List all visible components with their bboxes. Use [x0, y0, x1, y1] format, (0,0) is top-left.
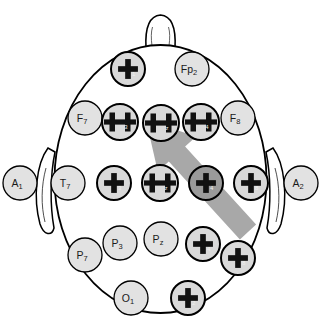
electrode-disc — [103, 226, 137, 260]
electrode-a1[interactable]: A1 — [3, 166, 37, 200]
electrode-disc — [68, 238, 102, 272]
electrode-p8[interactable]: 8 — [221, 241, 255, 275]
eeg-electrode-map: 1Fp2F73z4F8A1T73z48A2P7P3Pz48O12 — [0, 0, 321, 330]
electrode-p7[interactable]: P7 — [68, 238, 102, 272]
electrode-p3[interactable]: P3 — [103, 226, 137, 260]
electrode-disc — [114, 281, 148, 315]
electrode-pz[interactable]: Pz — [144, 222, 178, 256]
electrode-o1[interactable]: O1 — [114, 281, 148, 315]
right-ear-outline — [266, 148, 285, 234]
electrode-cz[interactable]: z — [142, 165, 178, 201]
electrode-t7[interactable]: T7 — [51, 166, 85, 200]
electrode-disc — [284, 166, 318, 200]
electrode-p4[interactable]: 4 — [186, 227, 220, 261]
electrode-disc — [144, 222, 178, 256]
electrode-c3[interactable]: 3 — [97, 166, 131, 200]
electrode-f8[interactable]: F8 — [221, 101, 255, 135]
figure-caption — [0, 321, 321, 330]
electrode-disc — [3, 166, 37, 200]
electrode-disc — [68, 101, 102, 135]
electrode-fp2[interactable]: Fp2 — [175, 52, 209, 86]
head-diagram-svg: 1Fp2F73z4F8A1T73z48A2P7P3Pz48O12 — [0, 0, 321, 330]
electrode-fp1[interactable]: 1 — [111, 52, 145, 86]
electrode-f7[interactable]: F7 — [68, 101, 102, 135]
electrode-c4[interactable]: 4 — [189, 166, 223, 200]
electrode-f3[interactable]: 3 — [102, 104, 138, 140]
electrode-a2[interactable]: A2 — [284, 166, 318, 200]
nose-outline — [146, 15, 175, 48]
electrode-fz[interactable]: z — [143, 105, 179, 141]
electrode-o2[interactable]: 2 — [171, 281, 205, 315]
electrode-marker-subscript: z — [165, 125, 168, 131]
electrode-disc — [175, 52, 209, 86]
electrode-f4[interactable]: 4 — [183, 104, 219, 140]
electrode-disc — [51, 166, 85, 200]
electrode-marker-subscript: z — [164, 185, 167, 191]
electrode-disc — [221, 101, 255, 135]
electrode-t8[interactable]: 8 — [234, 166, 268, 200]
